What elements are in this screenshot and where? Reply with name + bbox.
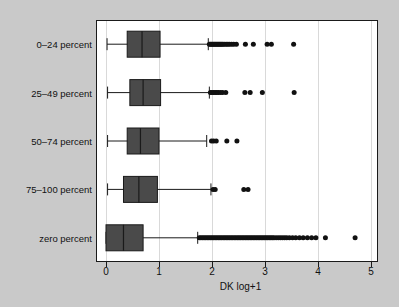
outlier-point [242,90,247,95]
outlier-point [224,139,229,144]
box-iqr [127,128,159,154]
outlier-point [251,42,256,47]
outlier-point [323,235,328,240]
boxplot-figure: 0–24 percent25–49 percent50–74 percent75… [0,0,399,307]
outlier-point [243,42,248,47]
x-axis-title: DK log+1 [0,281,399,292]
outlier-point [213,187,218,192]
outlier-point [291,42,296,47]
outlier-point [353,235,358,240]
outlier-point [260,90,265,95]
boxplot-group [106,225,358,251]
x-tick-label: 0 [103,266,109,277]
x-axis-title-text: DK log+1 [220,281,261,292]
outlier-point [246,187,251,192]
x-tick-label: 5 [368,266,374,277]
outlier-point [234,42,239,47]
outlier-point [214,139,219,144]
boxplot-group [108,80,297,106]
boxplot-group [107,31,296,57]
outlier-point [313,235,318,240]
x-tick-label: 2 [209,266,215,277]
outlier-point [248,90,253,95]
box-iqr [123,176,157,202]
x-tick-label: 4 [315,266,321,277]
outlier-point [234,139,239,144]
box-iqr [130,80,161,106]
box-iqr [127,31,160,57]
chart-canvas [0,0,399,307]
outlier-point [292,90,297,95]
x-tick-label: 1 [156,266,162,277]
x-tick-label: 3 [262,266,268,277]
outlier-point [269,42,274,47]
outlier-point [223,90,228,95]
boxplot-group [108,176,251,202]
boxplot-group [108,128,240,154]
box-iqr [106,225,143,251]
